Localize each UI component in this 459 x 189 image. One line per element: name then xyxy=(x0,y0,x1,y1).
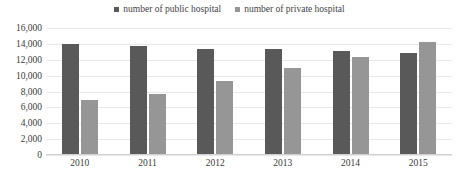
bar-chart: number of public hospital number of priv… xyxy=(0,0,459,189)
y-axis-tick-label: 10,000 xyxy=(0,71,42,81)
bar[interactable] xyxy=(352,57,369,155)
legend-swatch-private xyxy=(235,7,240,12)
y-axis-tick-label: 4,000 xyxy=(0,118,42,128)
legend-swatch-public xyxy=(114,7,119,12)
y-axis-tick-label: 16,000 xyxy=(0,23,42,33)
legend-label-public: number of public hospital xyxy=(123,4,221,14)
y-axis-tick-label: 8,000 xyxy=(0,87,42,97)
y-axis-tick-label: 6,000 xyxy=(0,102,42,112)
x-axis: 201020112012201320142015 xyxy=(46,157,452,173)
bar[interactable] xyxy=(265,49,282,155)
bar[interactable] xyxy=(197,49,214,155)
y-axis-tick-label: 12,000 xyxy=(0,55,42,65)
y-axis-tick-label: 14,000 xyxy=(0,39,42,49)
x-axis-tick-label: 2014 xyxy=(317,157,385,173)
y-axis: 16,00014,00012,00010,0008,0006,0004,0002… xyxy=(0,28,42,155)
bar[interactable] xyxy=(149,94,166,155)
bar-group xyxy=(181,28,249,155)
x-axis-tick-label: 2011 xyxy=(114,157,182,173)
x-axis-tick-label: 2013 xyxy=(249,157,317,173)
legend-label-private: number of private hospital xyxy=(244,4,345,14)
bar-group xyxy=(114,28,182,155)
y-axis-tick-label: 0 xyxy=(0,150,42,160)
bar-group xyxy=(317,28,385,155)
axis-baseline xyxy=(46,154,452,155)
bar[interactable] xyxy=(81,100,98,155)
bar-group xyxy=(249,28,317,155)
plot-area xyxy=(46,28,452,155)
legend-item-private: number of private hospital xyxy=(235,4,345,14)
x-axis-tick-label: 2010 xyxy=(46,157,114,173)
bar[interactable] xyxy=(400,53,417,155)
legend-item-public: number of public hospital xyxy=(114,4,221,14)
bar[interactable] xyxy=(419,42,436,155)
bar[interactable] xyxy=(333,51,350,155)
bar[interactable] xyxy=(130,46,147,155)
x-axis-tick-label: 2015 xyxy=(384,157,452,173)
bar-group xyxy=(384,28,452,155)
x-axis-tick-label: 2012 xyxy=(181,157,249,173)
bar-group xyxy=(46,28,114,155)
bar[interactable] xyxy=(62,44,79,155)
bar[interactable] xyxy=(284,68,301,155)
bar[interactable] xyxy=(216,81,233,155)
gridline xyxy=(46,155,452,156)
y-axis-tick-label: 2,000 xyxy=(0,134,42,144)
bar-groups xyxy=(46,28,452,155)
chart-legend: number of public hospital number of priv… xyxy=(0,2,459,16)
